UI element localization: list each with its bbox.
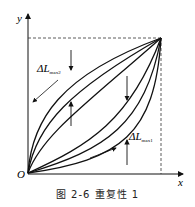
repeatability-diagram: y x O ΔLmax2 ΔLmax1 [0,0,195,207]
unloading-direction-arrow [33,80,58,102]
delta-l-max2-label: ΔLmax2 [36,62,61,75]
lower-curves [28,38,161,173]
loading-direction-arrow [90,148,116,158]
delta-l-max1-label: ΔLmax1 [128,130,153,143]
upper-curves [28,38,161,173]
origin-label: O [17,168,25,180]
y-axis-label: y [16,12,22,24]
figure-caption: 图 2-6 重复性 1 [0,186,195,201]
